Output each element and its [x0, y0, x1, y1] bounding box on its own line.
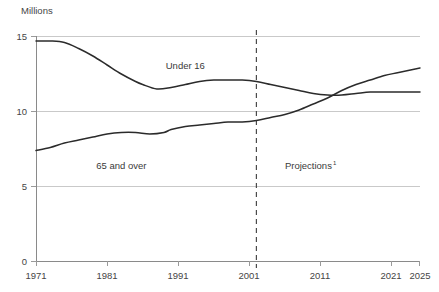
gridlines — [36, 37, 420, 187]
x-tick-label-2021: 2021 — [380, 270, 401, 281]
series-line-under-16 — [36, 41, 420, 95]
axes — [36, 36, 420, 262]
y-tick-label-15: 15 — [16, 31, 27, 42]
x-tick-label-2001: 2001 — [238, 270, 259, 281]
population-projection-chart: Millions 15 10 5 0 1971 — [0, 0, 439, 292]
series-label-65-and-over: 65 and over — [96, 160, 146, 171]
y-axis-title: Millions — [21, 5, 53, 16]
y-tick-label-5: 5 — [22, 181, 27, 192]
x-tick-label-1971: 1971 — [25, 270, 46, 281]
chart-svg: Millions 15 10 5 0 1971 — [0, 0, 439, 292]
y-tick-label-0: 0 — [22, 256, 27, 267]
x-tick-label-1981: 1981 — [96, 270, 117, 281]
x-tick-label-2025: 2025 — [409, 270, 430, 281]
y-tick-label-10: 10 — [16, 106, 27, 117]
y-axis-ticks: 15 10 5 0 — [16, 31, 36, 267]
projections-annotation: Projections — [285, 160, 332, 171]
series-label-under-16: Under 16 — [166, 60, 205, 71]
x-tick-label-1991: 1991 — [167, 270, 188, 281]
x-axis-ticks: 1971 1981 1991 2001 2011 2021 2025 — [25, 261, 430, 281]
projections-annotation-superscript: 1 — [333, 160, 337, 166]
x-tick-label-2011: 2011 — [310, 270, 330, 281]
